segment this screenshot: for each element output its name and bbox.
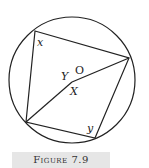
angle-label-y: y [86, 122, 94, 135]
center-label-O: O [75, 64, 84, 77]
circumcircle [9, 17, 135, 143]
circle-quadrilateral-diagram: x Y O X y [0, 0, 149, 150]
figure-caption: Figure 7.9 [12, 152, 110, 168]
angle-label-X: X [69, 85, 79, 98]
angle-label-Y: Y [61, 70, 70, 83]
angle-label-x: x [37, 36, 44, 49]
radius-to-bottom-left [26, 82, 72, 122]
